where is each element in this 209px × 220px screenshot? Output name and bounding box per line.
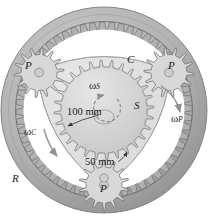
label-omega-carrier: ωC <box>24 126 36 137</box>
label-planet-top-left: P <box>25 60 32 71</box>
label-ring: R <box>12 173 19 184</box>
omega-carrier-subscript: C <box>31 129 36 137</box>
label-omega-sun: ωS <box>89 80 100 91</box>
planet-hub-pin <box>35 68 44 77</box>
planetary-gear-figure: P P P C S R ωS ωP ωC 100 mm 50 mm <box>0 0 209 220</box>
label-planet-top-right: P <box>168 60 175 71</box>
omega-planet-subscript: P <box>178 116 182 124</box>
dimension-label-planet: 50 mm <box>85 157 114 168</box>
label-planet-bottom: P <box>100 183 107 194</box>
label-sun: S <box>134 100 140 111</box>
label-carrier: C <box>127 54 134 65</box>
label-omega-planet: ωP <box>171 113 183 124</box>
dimension-label-sun: 100 mm <box>67 107 102 118</box>
omega-sun-subscript: S <box>96 83 100 91</box>
planet-bottom-hub <box>100 174 108 182</box>
